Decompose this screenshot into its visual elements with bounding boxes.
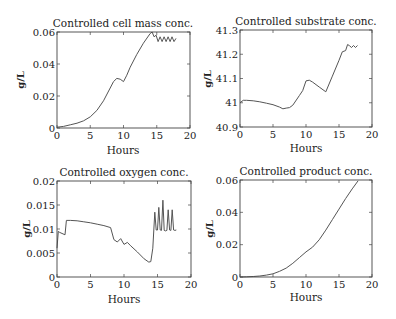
data-line: [240, 45, 358, 109]
x-tick-label: 10: [118, 279, 131, 290]
y-tick-label: 0.04: [216, 207, 238, 218]
x-tick-label: 5: [270, 129, 276, 140]
chart-title: Controlled product conc.: [240, 165, 373, 177]
x-tick-label: 15: [333, 129, 346, 140]
y-tick-label: 41.2: [216, 49, 238, 60]
axes-frame: [240, 30, 372, 127]
x-tick-label: 5: [87, 279, 93, 290]
y-tick-label: 0.005: [26, 248, 55, 259]
y-axis-label: g/L: [15, 71, 26, 89]
x-axis-label: Hours: [107, 144, 140, 156]
axes-frame: [57, 32, 190, 128]
y-tick-label: 0.015: [26, 200, 55, 211]
y-axis-label: g/L: [202, 70, 213, 88]
y-tick-label: 0.02: [33, 91, 55, 102]
x-tick-label: 5: [87, 130, 93, 141]
x-axis-label: Hours: [290, 142, 323, 154]
data-line: [57, 32, 176, 127]
y-tick-label: 41: [225, 97, 238, 108]
x-tick-label: 20: [366, 129, 379, 140]
x-tick-label: 10: [117, 130, 130, 141]
y-tick-label: 41.1: [216, 73, 238, 84]
x-tick-label: 10: [300, 129, 313, 140]
y-tick-label: 0.02: [33, 176, 55, 187]
axes-frame: [240, 180, 372, 277]
x-tick-label: 20: [185, 279, 198, 290]
x-tick-label: 20: [366, 279, 379, 290]
subplot-product: Controlled product conc. g/L Hours 05101…: [204, 165, 378, 303]
y-tick-label: 0.01: [33, 224, 55, 235]
y-tick-label: 0: [49, 123, 55, 134]
y-tick-label: 0.06: [33, 27, 55, 38]
subplot-oxygen: Controlled oxygen conc. g/L Hours 051015…: [21, 166, 197, 305]
x-tick-label: 15: [150, 130, 163, 141]
data-line: [240, 181, 358, 277]
x-axis-label: Hours: [108, 293, 141, 305]
y-axis-label: g/L: [21, 220, 32, 238]
y-tick-label: 41.3: [216, 25, 238, 36]
chart-title: Controlled substrate conc.: [235, 15, 376, 27]
subplot-cell-mass: Controlled cell mass conc. g/L Hours 051…: [15, 17, 196, 156]
y-tick-label: 0.02: [216, 239, 238, 250]
subplot-substrate: Controlled substrate conc. g/L Hours 051…: [202, 15, 378, 154]
figure: Controlled cell mass conc. g/L Hours 051…: [0, 0, 396, 319]
x-tick-label: 15: [333, 279, 346, 290]
x-tick-label: 10: [300, 279, 313, 290]
x-tick-label: 20: [184, 130, 197, 141]
y-tick-label: 0: [232, 272, 238, 283]
x-axis-label: Hours: [290, 291, 323, 303]
x-tick-label: 5: [270, 279, 276, 290]
x-tick-label: 15: [151, 279, 164, 290]
chart-title: Controlled oxygen conc.: [59, 166, 188, 178]
y-tick-label: 40.9: [216, 122, 238, 133]
chart-title: Controlled cell mass conc.: [53, 17, 193, 29]
data-line: [57, 200, 176, 262]
y-tick-label: 0.04: [33, 59, 55, 70]
y-tick-label: 0: [49, 272, 55, 283]
y-tick-label: 0.06: [216, 175, 238, 186]
y-axis-label: g/L: [204, 220, 215, 238]
